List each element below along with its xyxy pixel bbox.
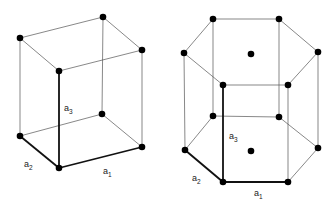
- hexagonal-lattice-points: [181, 16, 322, 186]
- cubic-cell-edges: [20, 17, 142, 147]
- cubic-cell: a3 a2 a1: [17, 14, 146, 178]
- hex-label-a1: a1: [254, 188, 263, 200]
- hexagonal-cell-edges: [184, 19, 318, 182]
- label-a3: a3: [64, 103, 73, 115]
- hexagonal-cell: a3 a2 a1: [181, 16, 322, 200]
- lattice-diagram: a3 a2 a1: [0, 0, 334, 207]
- label-a1: a1: [103, 166, 112, 178]
- hex-vector-a2: [185, 150, 223, 182]
- vector-a1: [59, 147, 142, 168]
- hex-label-a3: a3: [229, 131, 238, 143]
- hex-label-a2: a2: [192, 173, 201, 185]
- cubic-lattice-points: [17, 14, 146, 172]
- label-a2: a2: [24, 159, 33, 171]
